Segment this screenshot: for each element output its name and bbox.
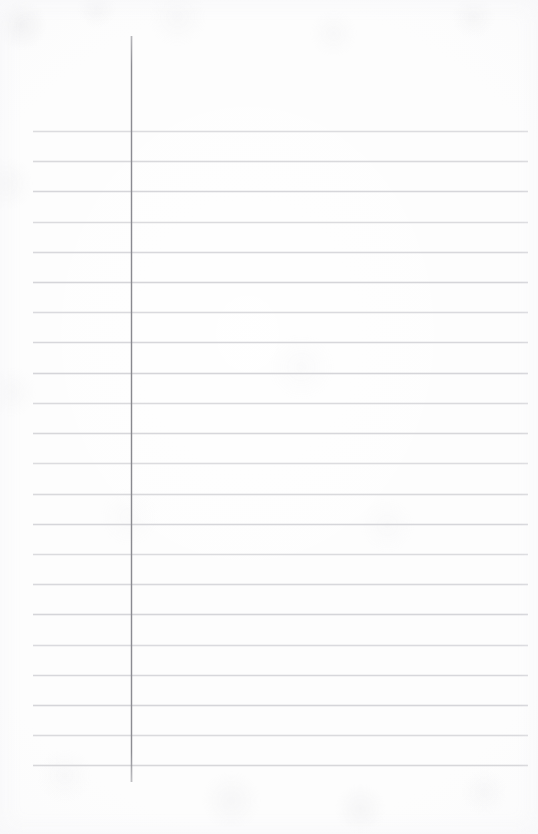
ruled-line xyxy=(33,161,528,162)
ruled-line xyxy=(33,524,528,525)
ruled-line xyxy=(33,252,528,253)
ruled-line xyxy=(33,735,528,736)
ruled-line xyxy=(33,222,528,223)
ruled-line xyxy=(33,765,528,766)
ruled-line xyxy=(33,584,528,585)
margin-rule-line xyxy=(131,36,132,782)
ruled-line xyxy=(33,494,528,495)
ruled-line xyxy=(33,131,528,132)
ruled-line xyxy=(33,675,528,676)
ruled-line xyxy=(33,312,528,313)
ruled-line xyxy=(33,191,528,192)
ruled-line xyxy=(33,433,528,434)
ruling-layer xyxy=(0,0,538,834)
ruled-line xyxy=(33,645,528,646)
ruled-line xyxy=(33,705,528,706)
notebook-page xyxy=(0,0,538,834)
ruled-line xyxy=(33,282,528,283)
ruled-line xyxy=(33,614,528,615)
ruled-line xyxy=(33,342,528,343)
ruled-line xyxy=(33,554,528,555)
ruled-line xyxy=(33,373,528,374)
ruled-line xyxy=(33,463,528,464)
ruled-line xyxy=(33,403,528,404)
